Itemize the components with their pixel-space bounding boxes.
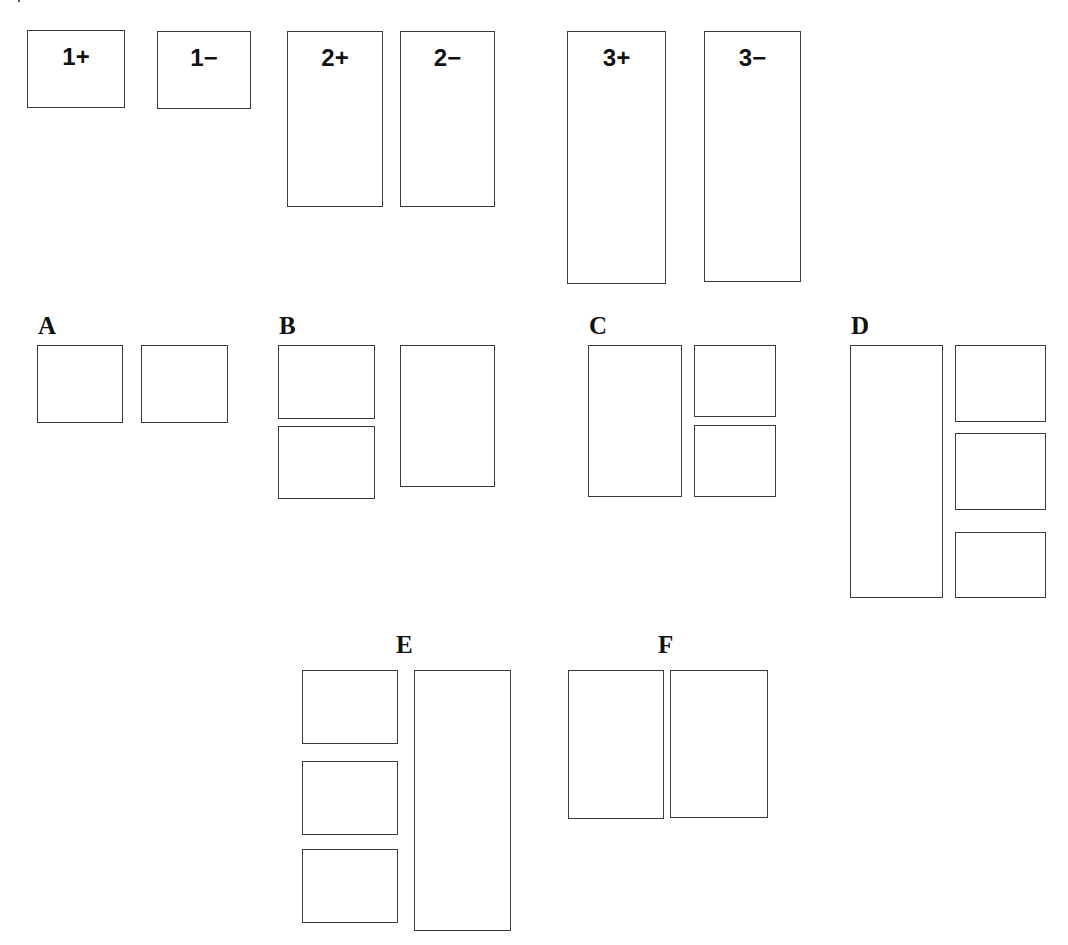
box-2-minus: 2−	[400, 31, 495, 207]
group-d-box-4	[955, 532, 1046, 598]
cropped-text-fragment	[18, 0, 26, 2]
group-c-box-1	[588, 345, 682, 497]
group-a-box-1	[37, 345, 123, 423]
group-d-box-1	[850, 345, 943, 598]
box-label: 2−	[401, 46, 494, 70]
box-3-plus: 3+	[567, 31, 666, 284]
group-label: D	[851, 313, 869, 338]
group-a-box-2	[141, 345, 228, 423]
group-label: E	[396, 632, 413, 657]
box-1-minus: 1−	[157, 31, 251, 109]
box-label: 3+	[568, 46, 665, 70]
group-d-box-2	[955, 345, 1046, 422]
group-e-box-1	[302, 670, 398, 744]
group-b-box-2	[278, 426, 375, 499]
box-label: 2+	[288, 46, 382, 70]
group-e-box-3	[302, 849, 398, 923]
group-c-box-3	[694, 425, 776, 497]
group-label: B	[279, 313, 296, 338]
box-label: 1+	[28, 45, 124, 69]
group-b-box-1	[278, 345, 375, 419]
box-label: 1−	[158, 46, 250, 70]
group-f-box-1	[568, 670, 664, 819]
box-3-minus: 3−	[704, 31, 801, 282]
group-label: C	[589, 313, 607, 338]
group-label: F	[658, 632, 673, 657]
group-f-box-2	[670, 670, 768, 818]
diagram-canvas: 1+ 1− 2+ 2− 3+ 3− A B C D E	[0, 0, 1068, 945]
group-e-box-4	[414, 670, 511, 931]
group-d-box-3	[955, 433, 1046, 510]
group-e-box-2	[302, 761, 398, 835]
box-2-plus: 2+	[287, 31, 383, 207]
box-label: 3−	[705, 46, 800, 70]
box-1-plus: 1+	[27, 30, 125, 108]
group-b-box-3	[400, 345, 495, 487]
group-label: A	[38, 313, 56, 338]
group-c-box-2	[694, 345, 776, 417]
